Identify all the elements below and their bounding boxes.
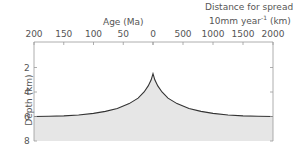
age-tick-label: 100 [85, 29, 102, 39]
age-tick-label: 50 [118, 29, 129, 39]
subsidence-chart: Age (Ma) Distance for spreading rate of … [0, 0, 293, 152]
distance-tick-label: 1000 [202, 29, 225, 39]
distance-tick-label: 2000 [262, 29, 285, 39]
depth-profile-fill [34, 74, 273, 141]
age-tick-label: 200 [25, 29, 42, 39]
distance-tick-label: 0 [150, 29, 156, 39]
age-axis-label: Age (Ma) [103, 17, 144, 27]
depth-tick-label: 8 [24, 136, 30, 146]
distance-unit-km: (km) [267, 16, 291, 26]
distance-unit-base: 10mm year [209, 16, 261, 26]
distance-axis-label-line2: 10mm year-1 (km) [209, 13, 291, 26]
age-tick-label: 150 [55, 29, 72, 39]
distance-tick-label: 500 [174, 29, 191, 39]
distance-axis-label-line1: Distance for spreading rate of [205, 2, 293, 12]
depth-axis-label: Depth (km) [24, 74, 34, 125]
depth-tick-label: 2 [24, 63, 30, 73]
distance-tick-label: 1500 [232, 29, 255, 39]
